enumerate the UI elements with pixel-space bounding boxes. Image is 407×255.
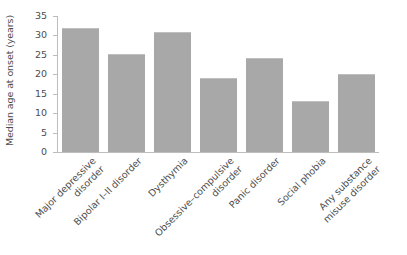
y-axis-tick-label: 35 — [35, 10, 47, 21]
x-axis-labels: Major depressive disorderBipolar I–II di… — [57, 155, 407, 255]
bar — [292, 101, 329, 152]
bar — [62, 28, 99, 152]
bar — [246, 58, 283, 152]
x-axis-line — [57, 152, 379, 153]
y-axis-tick-label: 15 — [35, 88, 47, 99]
y-axis-tick-label: 30 — [35, 29, 47, 40]
y-axis-title: Median age at onset (years) — [2, 3, 18, 158]
y-axis-tick-label: 10 — [35, 107, 47, 118]
bar-series — [57, 10, 379, 152]
y-axis-tick-label: 0 — [41, 146, 47, 157]
bar-chart: Median age at onset (years) 051015202530… — [0, 0, 407, 255]
y-axis-tick-label: 25 — [35, 49, 47, 60]
y-axis-tick: 0 — [53, 152, 57, 153]
plot-area: 05101520253035 — [57, 10, 379, 158]
y-axis-tick-label: 20 — [35, 68, 47, 79]
bar — [200, 78, 237, 152]
y-axis-tick-label: 5 — [41, 127, 47, 138]
x-axis-label: Any substance misuse disorder — [281, 155, 382, 255]
bar — [338, 74, 375, 152]
bar — [154, 32, 191, 152]
bar — [108, 54, 145, 152]
